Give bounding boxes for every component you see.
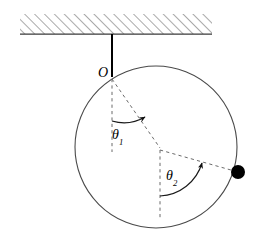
angle-label-theta1: θ1 (112, 128, 123, 144)
physics-diagram-figure: O θ1 θ2 (0, 0, 257, 238)
hatched-ceiling (20, 14, 212, 34)
theta1-symbol: θ (112, 127, 119, 142)
diagram-canvas (0, 0, 257, 238)
pendulum-bob (231, 165, 245, 179)
theta2-symbol: θ (166, 168, 173, 183)
angle-label-theta2: θ2 (166, 169, 177, 185)
theta1-subscript: 1 (119, 137, 123, 147)
constraint-circle (75, 66, 237, 228)
theta2-subscript: 2 (173, 178, 177, 188)
angle-arc-theta1 (112, 117, 145, 123)
ceiling-hatch-fill (20, 14, 212, 34)
pivot-label-O: O (98, 66, 108, 80)
